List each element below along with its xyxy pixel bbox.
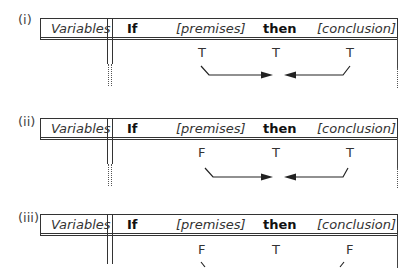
conclusion-header: [conclusion]	[317, 121, 396, 137]
column-divider	[107, 18, 113, 64]
if-keyword: If	[127, 121, 138, 137]
column-divider	[107, 214, 113, 264]
column-divider	[107, 118, 113, 164]
premises-header: [premises]	[176, 121, 246, 137]
conclusion-value: T	[346, 45, 354, 60]
converging-arrows-icon	[0, 162, 417, 186]
header-row: Variables If [premises] then [conclusion…	[40, 18, 398, 40]
premises-header: [premises]	[176, 21, 246, 37]
panel-label: (ii)	[18, 114, 35, 129]
conclusion-header: [conclusion]	[317, 21, 396, 37]
then-keyword: then	[263, 121, 297, 137]
conclusion-value: T	[346, 145, 354, 160]
then-keyword: then	[263, 21, 297, 37]
then-value: T	[272, 45, 280, 60]
premises-header: [premises]	[176, 217, 246, 233]
panel-label: (i)	[18, 12, 32, 27]
then-value: T	[272, 242, 280, 257]
variables-header: Variables	[51, 21, 111, 37]
then-keyword: then	[263, 217, 297, 233]
premises-value: F	[198, 145, 205, 160]
header-row: Variables If [premises] then [conclusion…	[40, 214, 398, 236]
converging-arrows-icon	[0, 60, 417, 84]
header-row: Variables If [premises] then [conclusion…	[40, 118, 398, 140]
conclusion-value: F	[346, 242, 353, 257]
premises-value: T	[198, 45, 206, 60]
then-value: T	[272, 145, 280, 160]
converging-arrows-icon	[0, 259, 417, 269]
premises-value: F	[198, 242, 205, 257]
panel-label: (iii)	[18, 210, 39, 225]
if-keyword: If	[127, 217, 138, 233]
conclusion-header: [conclusion]	[317, 217, 396, 233]
if-keyword: If	[127, 21, 138, 37]
variables-header: Variables	[51, 217, 111, 233]
variables-header: Variables	[51, 121, 111, 137]
